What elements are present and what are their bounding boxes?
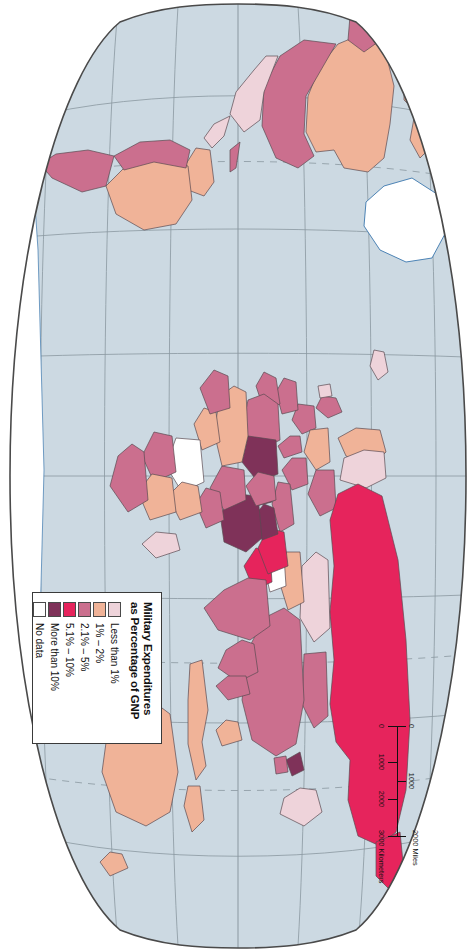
scale-miles-num-0: 0: [407, 724, 416, 728]
legend-swatch: [78, 602, 91, 617]
scale-bar: 2000 Miles 0 1000 0 1000 2000 3000 Kilom…: [356, 726, 418, 876]
scale-km-label: 3000 Kilometers: [377, 830, 386, 883]
scale-miles-num-1000: 1000: [407, 773, 416, 789]
legend-row: 5.1% – 10%: [63, 602, 77, 734]
legend-label: More than 10%: [48, 623, 61, 691]
legend-title-line2: as Percentage of GNP: [129, 602, 142, 734]
country-ireland: [318, 384, 332, 398]
scale-km-tick-0: [388, 726, 397, 727]
legend-items: Less than 1%1% – 2%2.1% – 5%5.1% – 10%Mo…: [33, 602, 122, 734]
legend-title: Military Expenditures as Percentage of G…: [129, 602, 154, 734]
legend-label: No data: [33, 623, 46, 658]
map-page: Military Expenditures as Percentage of G…: [0, 0, 476, 952]
legend-label: 1% – 2%: [93, 623, 106, 663]
scale-km-num-1000: 1000: [377, 754, 386, 770]
scale-miles-tick-2000: [397, 836, 406, 837]
legend-label: 5.1% – 10%: [63, 623, 76, 677]
scale-km-tick-1000: [388, 762, 397, 763]
country-antarctica: [0, 38, 44, 912]
legend-row: 2.1% – 5%: [78, 602, 92, 734]
map-canvas-rotated: Military Expenditures as Percentage of G…: [0, 0, 476, 952]
legend-row: More than 10%: [48, 602, 62, 734]
legend-label: Less than 1%: [108, 623, 121, 684]
legend-swatch: [63, 602, 76, 617]
legend-swatch: [108, 602, 121, 617]
scale-km-num-0: 0: [377, 724, 386, 728]
scale-miles-tick-1000: [397, 781, 406, 782]
scale-km-tick-3000: [388, 836, 397, 837]
legend-row: 1% – 2%: [93, 602, 107, 734]
country-south-korea: [274, 756, 288, 774]
legend-title-line1: Military Expenditures: [141, 602, 154, 734]
map-legend: Military Expenditures as Percentage of G…: [32, 592, 162, 744]
scale-miles-tick-0: [397, 726, 406, 727]
legend-row: Less than 1%: [108, 602, 122, 734]
scale-km-tick-2000: [388, 799, 397, 800]
scale-miles-label: 2000 Miles: [411, 830, 420, 866]
legend-swatch: [93, 602, 106, 617]
legend-swatch: [33, 602, 46, 617]
legend-row: No data: [33, 602, 47, 734]
legend-label: 2.1% – 5%: [78, 623, 91, 671]
scale-km-num-2000: 2000: [377, 791, 386, 807]
legend-swatch: [48, 602, 61, 617]
